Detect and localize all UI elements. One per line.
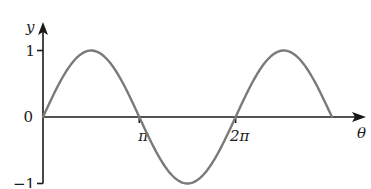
y-tick-label: −1 (13, 175, 35, 189)
y-tick-label: 1 (25, 42, 35, 60)
x-tick-label: 2π (229, 127, 251, 145)
origin-label: 0 (23, 108, 33, 126)
x-axis-label: θ (357, 124, 366, 142)
sine-chart: π2π1−1 θ y 0 (0, 0, 371, 188)
y-axis-label: y (25, 18, 35, 36)
